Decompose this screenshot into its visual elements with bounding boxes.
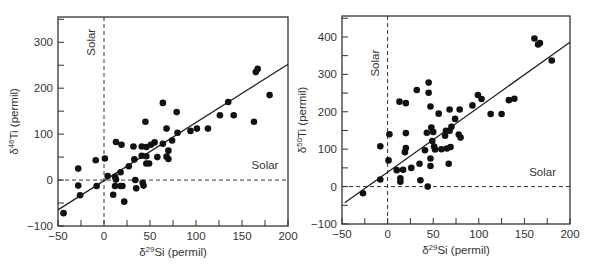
data-point [142, 118, 149, 125]
data-point [132, 177, 139, 184]
data-point [131, 156, 138, 163]
data-point [160, 100, 167, 107]
y-tick-label: 0 [331, 181, 337, 193]
data-point [396, 98, 403, 105]
data-point [478, 96, 485, 103]
data-point [377, 143, 384, 150]
data-point [385, 157, 392, 164]
data-point [165, 156, 172, 163]
chart-canvas: −50050100150200−1000100200300δ29Si (perm… [0, 0, 596, 268]
y-tick-label: −100 [311, 218, 337, 230]
data-point [427, 155, 434, 162]
data-point [143, 153, 150, 160]
data-point [266, 92, 273, 99]
data-point [163, 125, 170, 132]
solar-label-vertical: Solar [369, 50, 381, 77]
x-tick-label: 200 [278, 230, 297, 242]
y-tick-label: 300 [34, 36, 53, 48]
data-point [205, 125, 212, 132]
data-point [417, 177, 424, 184]
data-point [425, 79, 432, 86]
x-tick-label: 50 [144, 230, 157, 242]
scatter-chart-ti50: −50050100150200−1000100200300400δ29Si (p… [295, 16, 580, 256]
data-point [424, 129, 431, 136]
data-point [92, 157, 99, 164]
data-point [251, 118, 258, 125]
data-point [427, 103, 434, 110]
data-point [121, 198, 128, 205]
data-point [427, 163, 434, 170]
data-point [408, 165, 415, 172]
data-point [456, 106, 463, 113]
data-point [169, 137, 176, 144]
data-point [154, 154, 161, 161]
data-point [60, 210, 67, 217]
data-point [435, 110, 442, 117]
data-point [126, 163, 133, 170]
y-axis-label: δ46Ti (permil) [7, 88, 20, 155]
data-point [457, 134, 464, 141]
y-tick-label: 100 [318, 143, 337, 155]
y-tick-label: 100 [34, 128, 53, 140]
data-point [360, 190, 367, 197]
y-tick-label: 200 [318, 106, 337, 118]
data-point [432, 146, 439, 153]
data-point [75, 165, 82, 172]
data-point [531, 35, 538, 42]
data-point [146, 160, 153, 167]
data-point [230, 112, 237, 119]
data-point [413, 87, 420, 94]
data-point [424, 183, 431, 190]
solar-label-vertical: Solar [85, 29, 97, 56]
x-tick-label: 0 [101, 230, 107, 242]
data-point [386, 131, 393, 138]
data-point [151, 139, 158, 146]
data-point [104, 173, 111, 180]
data-point [117, 169, 124, 176]
data-point [165, 147, 172, 154]
y-tick-label: 300 [318, 68, 337, 80]
data-point [447, 144, 454, 151]
y-tick-label: 200 [34, 82, 53, 94]
data-point [110, 191, 117, 198]
data-point [133, 185, 140, 192]
data-point [400, 166, 407, 173]
x-tick-label: 150 [232, 230, 251, 242]
data-point [113, 176, 120, 183]
data-point [160, 140, 167, 147]
data-point [93, 183, 100, 190]
data-point [452, 116, 459, 123]
data-point [537, 40, 544, 47]
x-tick-label: 150 [515, 228, 534, 240]
data-point [416, 160, 423, 167]
data-point [130, 143, 137, 150]
x-tick-label: 100 [469, 228, 488, 240]
data-point [425, 89, 432, 96]
data-point [469, 102, 476, 109]
data-point [377, 176, 384, 183]
data-point [498, 111, 505, 118]
data-point [511, 95, 518, 102]
x-tick-label: 0 [384, 228, 390, 240]
data-point [446, 106, 453, 113]
data-point [194, 125, 201, 132]
data-point [187, 128, 194, 135]
x-tick-label: 200 [560, 228, 579, 240]
data-point [422, 147, 429, 154]
data-point [254, 66, 261, 73]
data-point [403, 130, 410, 137]
solar-label-horizontal: Solar [529, 166, 556, 178]
data-point [445, 160, 452, 167]
y-tick-label: −100 [27, 220, 53, 232]
data-point [174, 129, 181, 136]
data-point [119, 183, 126, 190]
y-tick-label: 400 [318, 31, 337, 43]
x-axis-label: δ29Si (permil) [139, 245, 207, 258]
data-point [393, 167, 400, 174]
data-point [448, 123, 455, 130]
x-tick-label: 100 [186, 230, 205, 242]
data-point [140, 182, 147, 189]
data-point [429, 138, 436, 145]
regression-line [58, 64, 288, 210]
data-point [487, 111, 494, 118]
